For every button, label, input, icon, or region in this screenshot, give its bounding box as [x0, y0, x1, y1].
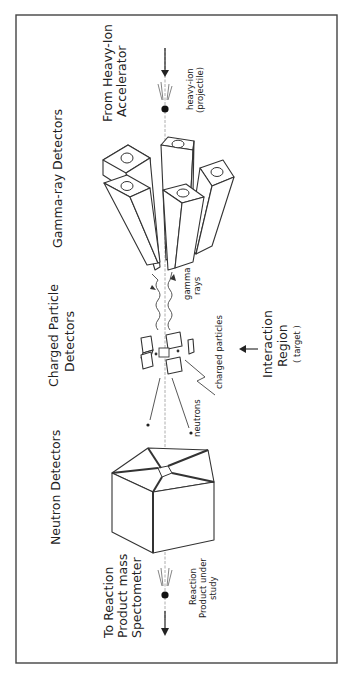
label-reaction-product-line2: Product under [198, 558, 208, 618]
heavy-ion-projectile-dot [161, 105, 168, 112]
gamma-ray-wavy-arrows-icon [150, 272, 176, 330]
label-source-line1: From Heavy-Ion [100, 24, 115, 122]
label-reaction-product-line1: Reaction [188, 568, 198, 605]
label-target: ( target ) [292, 325, 302, 363]
label-charged-particles: charged particles [214, 315, 224, 389]
charged-particle-detectors [141, 332, 194, 374]
label-interaction-line1: Interaction [260, 310, 275, 378]
label-charged-detectors-line2: Detectors [62, 311, 77, 372]
label-gamma-rays-line1: gamma [182, 268, 192, 300]
gamma-ray-detector-array [103, 137, 234, 270]
label-source-line2: Accelerator [114, 45, 129, 117]
target-icon [159, 348, 169, 357]
neutron-detector-block [112, 448, 214, 553]
label-gamma-rays-line2: rays [192, 276, 202, 295]
label-destination-line2: Product mass [115, 554, 130, 638]
label-projectile-line2: (projectile) [195, 67, 205, 113]
label-neutron-detectors: Neutron Detectors [48, 430, 63, 545]
experiment-diagram: From Heavy-Ion Accelerator heavy-ion (pr… [0, 0, 345, 683]
charged-particles-pointer [185, 360, 215, 395]
outgoing-arrow-icon [161, 611, 169, 636]
label-projectile-line1: heavy-ion [185, 68, 195, 110]
label-reaction-product-line3: study [208, 576, 218, 600]
label-destination-line1: To Reaction [101, 567, 116, 639]
label-gamma-detectors: Gamma-ray Detectors [50, 109, 65, 248]
label-neutrons: neutrons [192, 399, 202, 437]
label-charged-detectors-line1: Charged Particle [46, 284, 61, 387]
incoming-arrow-icon [161, 48, 169, 77]
label-destination-line3: Spectometer [129, 557, 144, 638]
reaction-product-dot [161, 591, 168, 598]
interaction-arrow-icon [239, 345, 258, 353]
neutron-trajectories [146, 378, 192, 435]
label-interaction-line2: Region [275, 324, 290, 367]
